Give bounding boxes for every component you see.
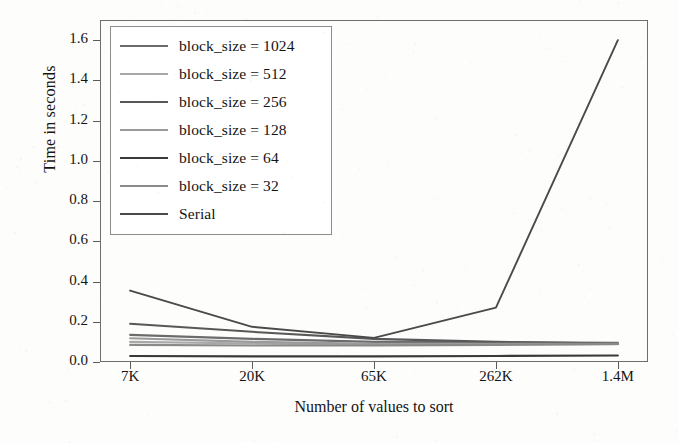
x-tick-label: 20K [212,368,292,385]
legend-label: block_size = 512 [179,65,287,83]
x-tick-mark [618,362,619,369]
legend-label: block_size = 32 [179,177,279,195]
legend-item: block_size = 32 [111,172,331,200]
chart-figure: Time in seconds 0.00.20.40.60.81.01.21.4… [0,0,678,443]
legend-swatch-icon [120,129,168,131]
y-tick-mark [93,121,100,122]
legend-swatch-icon [120,213,168,215]
x-tick-mark [130,362,131,369]
legend-item: block_size = 1024 [111,32,331,60]
legend-label: block_size = 1024 [179,37,294,55]
x-axis-label: Number of values to sort [100,398,648,416]
legend-swatch-icon [120,45,168,47]
y-tick-mark [93,282,100,283]
x-tick-mark [496,362,497,369]
legend-label: block_size = 256 [179,93,287,111]
legend-item: block_size = 128 [111,116,331,144]
legend-item: block_size = 64 [111,144,331,172]
legend-label: block_size = 128 [179,121,287,139]
x-tick-label: 7K [90,368,170,385]
y-tick-mark [93,201,100,202]
legend-label: Serial [179,205,216,223]
legend-swatch-icon [120,185,168,187]
legend-swatch-icon [120,157,168,159]
chart-legend: block_size = 1024block_size = 512block_s… [110,26,332,235]
y-tick-mark [93,40,100,41]
y-tick-mark [93,241,100,242]
legend-label: block_size = 64 [179,149,279,167]
x-tick-label: 1.4M [578,368,658,385]
legend-swatch-icon [120,73,168,75]
x-tick-label: 65K [334,368,414,385]
x-tick-label: 262K [456,368,536,385]
y-tick-mark [93,80,100,81]
legend-swatch-icon [120,101,168,103]
legend-item: block_size = 256 [111,88,331,116]
legend-item: Serial [111,200,331,228]
series-line [130,356,618,357]
y-tick-mark [93,322,100,323]
legend-item: block_size = 512 [111,60,331,88]
x-tick-mark [374,362,375,369]
x-tick-mark [252,362,253,369]
y-tick-mark [93,161,100,162]
y-tick-mark [93,362,100,363]
